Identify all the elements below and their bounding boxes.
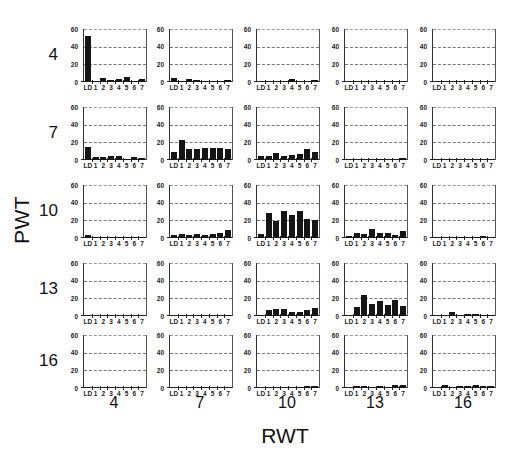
y-tick-label: 0 — [64, 385, 78, 392]
y-tick-label: 60 — [237, 26, 251, 33]
y-tick-label: 0 — [413, 385, 427, 392]
x-axis-line — [342, 81, 407, 82]
bar-1 — [93, 237, 99, 239]
y-tick-label: 60 — [413, 26, 427, 33]
y-tick-label: 0 — [150, 157, 164, 164]
y-tick-label: 20 — [150, 295, 164, 302]
plot-area: 0204060LD1234567 — [256, 335, 320, 388]
bar-7 — [225, 80, 231, 82]
y-tick-label: 0 — [237, 235, 251, 242]
y-tick-label: 0 — [64, 79, 78, 86]
y-tick-label: 40 — [64, 121, 78, 128]
panel-pwt10-rwt13: 0204060LD1234567 — [344, 185, 408, 239]
bar-3 — [281, 211, 287, 238]
gridline-40 — [345, 203, 407, 204]
row-label-pwt-10: 10 — [28, 201, 58, 221]
gridline-60 — [345, 335, 407, 336]
bar-4 — [377, 159, 383, 161]
bar-5 — [473, 385, 479, 388]
panel-pwt16-rwt4: 0204060LD1234567 — [83, 335, 147, 389]
bar-1 — [354, 307, 360, 316]
plot-area: 0204060LD1234567 — [169, 263, 233, 316]
y-tick-label: 0 — [325, 313, 339, 320]
bar-5 — [385, 387, 391, 389]
y-tick-label: 60 — [64, 26, 78, 33]
x-tick-label: 7 — [486, 84, 496, 91]
x-tick-label: 7 — [137, 84, 147, 91]
gridline-40 — [257, 281, 319, 282]
bar-LD — [85, 36, 91, 82]
bar-5 — [473, 314, 479, 316]
plot-area: 0204060LD1234567 — [344, 185, 408, 238]
y-tick-label: 40 — [64, 277, 78, 284]
gridline-60 — [170, 29, 232, 30]
bar-LD — [171, 78, 177, 82]
y-tick-label: 40 — [413, 43, 427, 50]
y-tick-label: 60 — [325, 332, 339, 339]
bar-7 — [400, 158, 406, 160]
plot-area: 0204060LD1234567 — [169, 335, 233, 388]
x-tick-label: 7 — [310, 162, 320, 169]
gridline-40 — [84, 353, 146, 354]
panel-pwt16-rwt13: 0204060LD1234567 — [344, 335, 408, 389]
y-tick-label: 20 — [413, 217, 427, 224]
y-tick-label: 20 — [413, 367, 427, 374]
bar-2 — [273, 309, 279, 316]
x-tick-label: 7 — [137, 240, 147, 247]
gridline-40 — [433, 203, 495, 204]
bar-4 — [202, 148, 208, 160]
gridline-40 — [257, 125, 319, 126]
gridline-20 — [433, 298, 495, 299]
x-axis-line — [254, 81, 319, 82]
bar-3 — [194, 80, 200, 82]
gridline-20 — [433, 142, 495, 143]
panel-pwt13-rwt4: 0204060LD1234567 — [83, 263, 147, 317]
y-tick-label: 0 — [325, 385, 339, 392]
x-tick-label: 7 — [486, 318, 496, 325]
y-tick-label: 0 — [413, 79, 427, 86]
gridline-40 — [170, 353, 232, 354]
gridline-40 — [257, 203, 319, 204]
gridline-40 — [170, 281, 232, 282]
panel-pwt13-rwt16: 0204060LD1234567 — [432, 263, 496, 317]
bar-1 — [354, 386, 360, 388]
bar-3 — [369, 304, 375, 316]
y-tick-label: 0 — [237, 157, 251, 164]
bar-7 — [139, 237, 145, 239]
bar-LD — [171, 235, 177, 238]
y-tick-label: 40 — [64, 349, 78, 356]
x-axis-line — [167, 315, 232, 316]
bar-7 — [312, 308, 318, 316]
y-tick-label: 20 — [325, 295, 339, 302]
x-axis-line — [167, 387, 232, 388]
plot-area: 0204060LD1234567 — [256, 185, 320, 238]
gridline-60 — [84, 107, 146, 108]
x-axis-line — [430, 159, 495, 160]
bar-2 — [100, 237, 106, 239]
bar-2 — [273, 153, 279, 160]
bar-6 — [217, 233, 223, 238]
bar-5 — [124, 159, 130, 161]
y-tick-label: 20 — [237, 139, 251, 146]
gridline-20 — [257, 370, 319, 371]
panel-pwt13-rwt7: 0204060LD1234567 — [169, 263, 233, 317]
gridline-40 — [170, 47, 232, 48]
y-tick-label: 20 — [237, 367, 251, 374]
y-tick-label: 0 — [150, 385, 164, 392]
y-tick-label: 40 — [237, 277, 251, 284]
bar-7 — [312, 152, 318, 160]
bar-6 — [304, 149, 310, 160]
bar-3 — [108, 237, 114, 239]
bar-4 — [465, 314, 471, 316]
panel-pwt10-rwt7: 0204060LD1234567 — [169, 185, 233, 239]
bar-4 — [289, 312, 295, 316]
row-label-pwt-16: 16 — [28, 351, 58, 371]
plot-area: 0204060LD1234567 — [83, 107, 147, 160]
gridline-60 — [84, 29, 146, 30]
x-axis-line — [81, 315, 146, 316]
gridline-60 — [84, 263, 146, 264]
y-tick-label: 0 — [150, 235, 164, 242]
y-tick-label: 20 — [150, 217, 164, 224]
bar-4 — [377, 233, 383, 238]
bar-6 — [480, 315, 486, 317]
